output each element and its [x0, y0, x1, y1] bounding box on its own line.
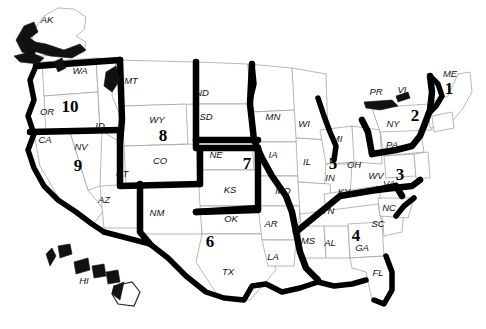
state-label-ut: UT [116, 168, 130, 179]
region-number-9: 9 [74, 156, 83, 175]
region-number-1: 1 [445, 79, 454, 98]
state-label-ca: CA [38, 134, 51, 145]
state-label-tx: TX [222, 266, 235, 277]
state-label-nv: NV [74, 141, 89, 152]
state-label-sd: SD [199, 111, 212, 122]
state-label-ne: NE [209, 149, 223, 160]
state-label-me: ME [443, 68, 458, 79]
state-label-or: OR [40, 106, 54, 117]
state-label-ms: MS [301, 235, 316, 246]
state-label-wy: WY [149, 114, 165, 125]
region-number-10: 10 [62, 97, 79, 116]
state-label-ny: NY [386, 118, 400, 129]
state-label-ak: AK [40, 14, 54, 25]
state-label-sc: SC [371, 218, 384, 229]
state-label-nc: NC [382, 202, 396, 213]
state-label-nm: NM [150, 207, 165, 218]
state-label-wa: WA [72, 65, 87, 76]
state-label-mn: MN [266, 111, 281, 122]
region-number-4: 4 [352, 226, 361, 245]
hawaii-island-1 [46, 248, 56, 266]
state-label-la: LA [267, 251, 279, 262]
state-label-wi: WI [298, 118, 310, 129]
state-label-co: CO [153, 155, 168, 166]
us-federal-regions-map: AKWAORCANVIDAZUTMTWYCONMNDSDNEKSOKTXMNIA… [0, 0, 486, 329]
state-label-ky: KY [338, 186, 351, 197]
state-label-pa: PA [386, 139, 398, 150]
region-number-6: 6 [206, 232, 215, 251]
state-label-pr: PR [369, 86, 382, 97]
state-label-mo: MO [275, 185, 291, 196]
state-label-fl: FL [372, 267, 383, 278]
region-number-2: 2 [411, 106, 420, 125]
state-label-id: ID [95, 120, 105, 131]
state-label-hi: HI [79, 275, 89, 286]
state-label-nd: ND [195, 87, 209, 98]
hawaii-island-5 [106, 270, 120, 284]
hawaii-island-3 [74, 258, 90, 274]
state-label-ar: AR [263, 218, 277, 229]
hawaii-island-4 [92, 264, 106, 278]
state-label-az: AZ [97, 194, 111, 205]
state-label-oh: OH [347, 159, 361, 170]
state-label-va: VA [383, 178, 395, 189]
region-number-3: 3 [396, 165, 405, 184]
state-label-il: IL [303, 156, 311, 167]
region-number-5: 5 [329, 154, 338, 173]
state-label-al: AL [323, 237, 336, 248]
state-label-mt: MT [124, 75, 139, 86]
map-canvas: AKWAORCANVIDAZUTMTWYCONMNDSDNEKSOKTXMNIA… [0, 0, 486, 329]
state-label-in: IN [325, 172, 335, 183]
state-label-mi: MI [332, 133, 343, 144]
state-label-ok: OK [224, 213, 238, 224]
state-label-tn: TN [322, 205, 335, 216]
state-label-ks: KS [224, 184, 237, 195]
state-label-vi: VI [398, 84, 407, 95]
region-number-8: 8 [159, 126, 168, 145]
region-number-7: 7 [243, 154, 252, 173]
hawaii-island-2 [58, 244, 72, 258]
state-label-ia: IA [269, 149, 278, 160]
